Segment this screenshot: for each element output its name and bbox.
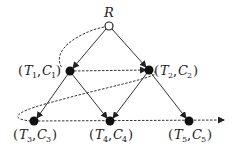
svg-text:,: , [37,63,41,78]
svg-text:3: 3 [46,135,51,144]
traversal-r-to-n1 [59,27,104,68]
root-label: R [103,5,114,20]
node-t1-c1 [66,67,75,76]
svg-text:): ) [52,127,57,142]
node-t5-c5 [185,117,194,126]
label-t1-c1: ( T 1 , C 1 ) [18,63,61,80]
svg-text:2: 2 [187,71,192,80]
label-t2-c2: ( T 2 , C 2 ) [154,63,198,80]
svg-text:,: , [108,127,112,142]
label-t4-c4: ( T 4 , C 4 ) [89,127,133,144]
traversal-n2-to-n3 [18,71,156,121]
svg-text:(: ( [13,127,18,142]
traversal-n1-to-n2 [74,70,146,71]
svg-text:): ) [193,63,198,78]
node-t4-c4 [106,117,115,126]
root-node [105,22,113,30]
edge-n1-n4 [72,74,107,118]
node-t2-c2 [145,66,154,75]
svg-text:): ) [207,127,212,142]
svg-text:(: ( [168,127,173,142]
edge-r-n1 [73,29,106,68]
edge-r-n2 [112,29,146,67]
node-t3-c3 [30,117,39,126]
tree-traversal-diagram: R ( T 1 , C 1 ) ( T 2 , C 2 ) ( T 3 [0,0,234,155]
svg-text:4: 4 [122,135,127,144]
svg-text:(: ( [89,127,94,142]
traversal-n3-to-end [38,120,224,121]
svg-text:(: ( [154,63,159,78]
edge-n1-n3 [37,74,68,118]
svg-text:,: , [173,63,177,78]
svg-text:5: 5 [201,135,206,144]
label-t3-c3: ( T 3 , C 3 ) [13,127,57,144]
svg-text:): ) [128,127,133,142]
svg-text:): ) [56,63,61,78]
svg-text:,: , [32,127,36,142]
svg-text:,: , [187,127,191,142]
label-t5-c5: ( T 5 , C 5 ) [168,127,212,144]
edge-n2-n4 [113,73,147,118]
svg-text:(: ( [18,63,23,78]
diagram-svg: R ( T 1 , C 1 ) ( T 2 , C 2 ) ( T 3 [0,0,234,155]
